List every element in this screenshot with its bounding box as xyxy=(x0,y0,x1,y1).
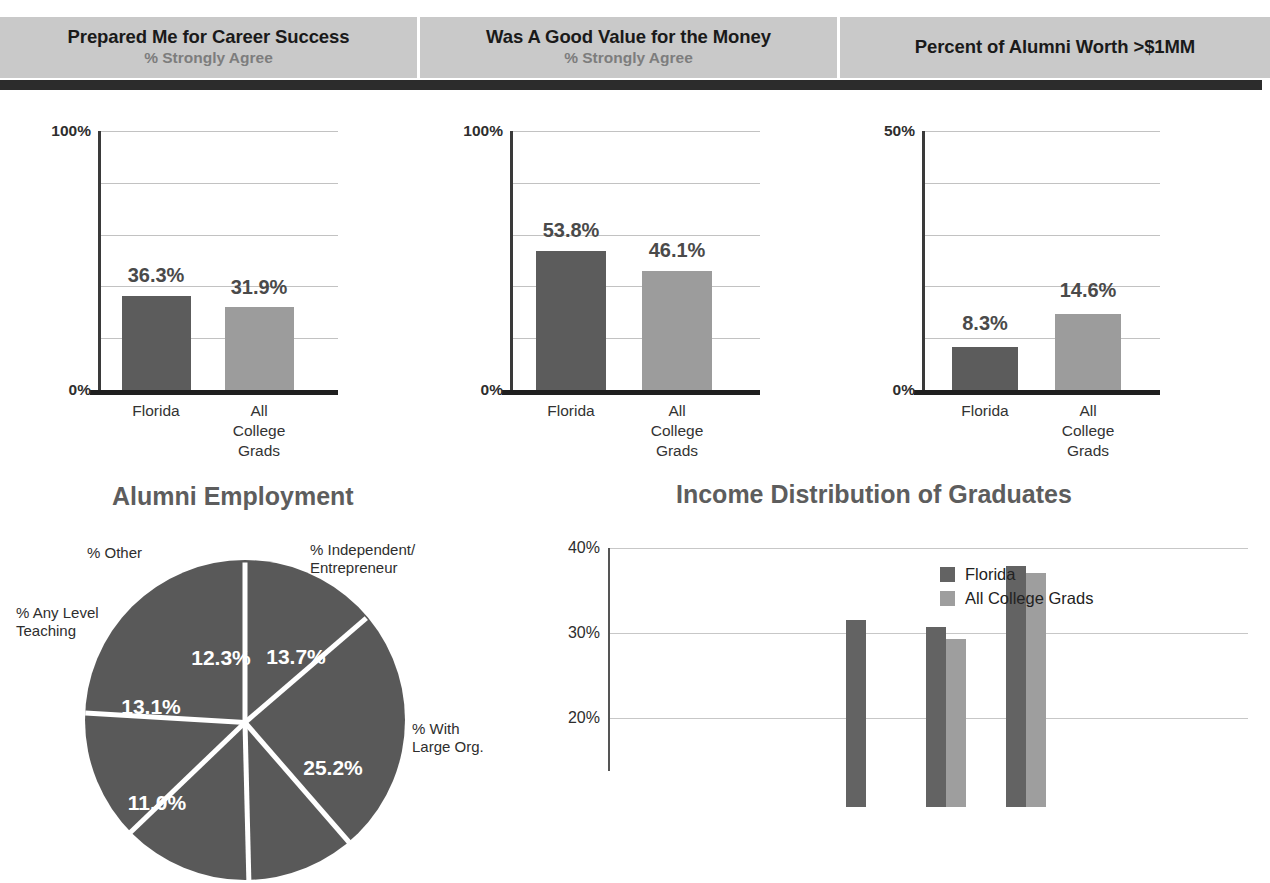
header-title: Percent of Alumni Worth >$1MM xyxy=(915,36,1195,57)
pie-chart-title: Alumni Employment xyxy=(112,482,354,511)
x-category-all-college-grads: All College Grads xyxy=(651,401,704,460)
plot-area: 40% 30% 20% xyxy=(608,548,1248,771)
y-tick-top: 50% xyxy=(884,122,915,140)
plot-area: 50% 0% 8.3% 14.6% xyxy=(922,131,1160,390)
pie-callout-independent: % Independent/ Entrepreneur xyxy=(310,541,415,578)
pie-separator xyxy=(243,722,252,882)
income-bar-florida xyxy=(926,627,946,807)
pie-disc: 13.7% 25.2% 11.0% 13.1% 12.3% xyxy=(85,560,405,880)
pie-value-independent: 13.7% xyxy=(266,645,326,669)
header-panel-alumni-worth: Percent of Alumni Worth >$1MM xyxy=(840,17,1270,78)
plot-area: 100% 0% 53.8% 46.1% xyxy=(510,131,760,390)
x-axis xyxy=(502,390,760,395)
pie-value-unlabeled: 11.0% xyxy=(128,791,186,815)
bar-florida xyxy=(122,296,191,390)
pie-callout-teaching: % Any Level Teaching xyxy=(16,604,99,641)
header-subtitle: % Strongly Agree xyxy=(564,49,693,68)
header-panel-good-value: Was A Good Value for the Money % Strongl… xyxy=(420,17,840,78)
legend-label-florida: Florida xyxy=(965,565,1015,584)
header-title: Was A Good Value for the Money xyxy=(486,26,771,47)
y-tick-bottom: 0% xyxy=(481,381,503,399)
pie-separator xyxy=(243,616,368,724)
bar-value-florida: 53.8% xyxy=(543,219,600,242)
y-tick-top: 100% xyxy=(463,122,503,140)
income-chart-title: Income Distribution of Graduates xyxy=(676,480,1072,509)
pie-value-other: 12.3% xyxy=(191,646,251,670)
bar-value-all-college-grads: 46.1% xyxy=(649,239,706,262)
y-tick-top: 100% xyxy=(51,122,91,140)
pie-value-teaching: 13.1% xyxy=(121,695,181,719)
pie-value-large-org: 25.2% xyxy=(303,756,363,780)
x-category-florida: Florida xyxy=(961,401,1008,421)
income-bar-florida xyxy=(846,620,866,807)
x-category-florida: Florida xyxy=(547,401,594,421)
bar-all-college-grads xyxy=(642,271,712,390)
y-tick-bottom: 0% xyxy=(69,381,91,399)
pie-separator xyxy=(243,721,352,845)
legend-label-all-college-grads: All College Grads xyxy=(965,589,1093,608)
y-tick-20: 20% xyxy=(568,709,600,727)
pie-separator xyxy=(243,563,248,723)
header-divider-rule xyxy=(0,80,1262,90)
bar-value-florida: 8.3% xyxy=(962,312,1008,335)
income-distribution-chart: 40% 30% 20% Florida All College Grads xyxy=(490,520,1270,771)
legend-swatch-florida xyxy=(940,567,955,582)
x-axis xyxy=(90,390,338,395)
x-category-all-college-grads: All College Grads xyxy=(1062,401,1115,460)
header-title: Prepared Me for Career Success xyxy=(68,26,350,47)
legend-item-all-college-grads: All College Grads xyxy=(940,589,1093,608)
y-tick-bottom: 0% xyxy=(893,381,915,399)
chart-alumni-worth: 50% 0% 8.3% 14.6% Florida All College Gr… xyxy=(830,112,1260,462)
header-banner: Prepared Me for Career Success % Strongl… xyxy=(0,17,1270,78)
chart-career-success: 100% 0% 36.3% 31.9% Florida All College … xyxy=(0,112,420,462)
bar-value-florida: 36.3% xyxy=(128,264,185,287)
x-category-florida: Florida xyxy=(132,401,179,421)
y-axis xyxy=(510,131,513,390)
income-chart-legend: Florida All College Grads xyxy=(940,565,1093,613)
header-subtitle: % Strongly Agree xyxy=(144,49,273,68)
pie-callout-large-org: % With Large Org. xyxy=(412,720,484,757)
bar-value-all-college-grads: 31.9% xyxy=(231,276,288,299)
legend-swatch-all-college-grads xyxy=(940,591,955,606)
y-axis xyxy=(608,548,610,771)
bar-florida xyxy=(952,347,1018,390)
x-category-all-college-grads: All College Grads xyxy=(233,401,286,460)
legend-item-florida: Florida xyxy=(940,565,1093,584)
chart-good-value: 100% 0% 53.8% 46.1% Florida All College … xyxy=(412,112,832,462)
y-axis xyxy=(922,131,925,390)
y-tick-40: 40% xyxy=(568,539,600,557)
y-axis xyxy=(98,131,101,390)
bar-florida xyxy=(536,251,606,390)
bar-all-college-grads xyxy=(225,307,294,390)
x-axis xyxy=(914,390,1160,395)
bar-all-college-grads xyxy=(1055,314,1121,390)
plot-area: 100% 0% 36.3% 31.9% xyxy=(98,131,338,390)
header-panel-career-success: Prepared Me for Career Success % Strongl… xyxy=(0,17,420,78)
bar-value-all-college-grads: 14.6% xyxy=(1060,279,1117,302)
y-tick-30: 30% xyxy=(568,624,600,642)
alumni-employment-pie-chart: 13.7% 25.2% 11.0% 13.1% 12.3% % Independ… xyxy=(0,520,500,771)
income-bar-all-college-grads xyxy=(946,639,966,807)
pie-callout-other: % Other xyxy=(87,544,142,562)
pie-separator xyxy=(128,721,247,835)
